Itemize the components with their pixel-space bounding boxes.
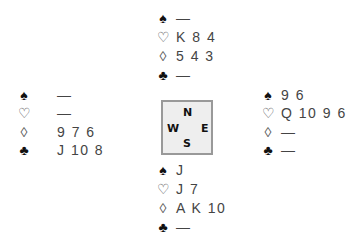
spade-icon: ♠ — [17, 86, 31, 105]
compass-table: N W E S — [161, 100, 213, 155]
club-icon: ♣ — [17, 141, 31, 160]
spade-icon: ♠ — [261, 86, 275, 105]
diamond-icon: ◊ — [261, 123, 275, 142]
heart-icon: ♡ — [261, 104, 275, 123]
spade-icon: ♠ — [156, 161, 170, 180]
club-icon: ♣ — [261, 141, 275, 160]
club-icon: ♣ — [156, 66, 170, 85]
compass-north: N — [183, 106, 192, 119]
heart-icon: ♡ — [156, 180, 170, 199]
heart-icon: ♡ — [17, 104, 31, 123]
compass-east: E — [201, 122, 209, 135]
diamond-icon: ◊ — [17, 123, 31, 142]
spade-icon: ♠ — [156, 9, 170, 28]
diamond-icon: ◊ — [156, 47, 170, 66]
compass-west: W — [167, 122, 179, 135]
heart-icon: ♡ — [156, 28, 170, 47]
club-icon: ♣ — [156, 218, 170, 237]
diamond-icon: ◊ — [156, 199, 170, 218]
compass-south: S — [183, 137, 191, 150]
